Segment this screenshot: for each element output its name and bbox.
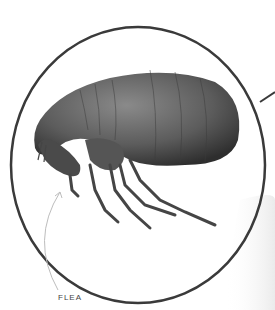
flea-callout-illustration (0, 0, 275, 310)
flea-label: FLEA (58, 293, 82, 302)
background-shape (225, 195, 275, 310)
flea-icon (34, 70, 239, 228)
label-pointer-line (44, 192, 60, 290)
callout-circle (11, 27, 265, 303)
callout-connector-line (260, 92, 275, 102)
